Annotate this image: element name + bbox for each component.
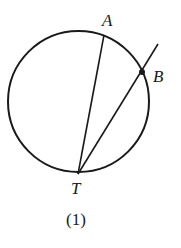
- point-b-dot: [139, 69, 145, 75]
- label-a: A: [101, 11, 113, 30]
- label-t: T: [71, 179, 82, 198]
- circle-diagram: A B T (1): [0, 0, 181, 248]
- circle: [8, 31, 149, 172]
- figure-caption: (1): [66, 210, 86, 229]
- label-b: B: [153, 67, 164, 86]
